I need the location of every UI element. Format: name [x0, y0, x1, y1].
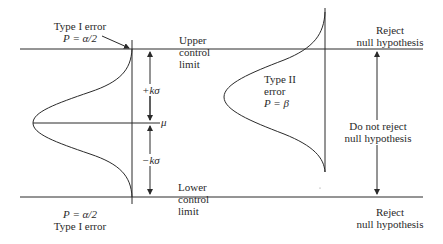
upper-limit-line2: control — [179, 46, 210, 58]
mean-label: μ — [161, 116, 167, 128]
type1-error-top-prob: P = α/2 — [44, 32, 116, 44]
reject-top-line1: Reject — [340, 24, 440, 36]
type1-error-top-title: Type I error — [44, 20, 116, 32]
lower-limit-line1: Lower — [178, 181, 209, 193]
do-not-reject-line2: null hypothesis — [338, 132, 418, 144]
upper-limit-line1: Upper — [179, 34, 210, 46]
type2-prob: P = β — [264, 97, 296, 109]
reject-bottom-line1: Reject — [340, 206, 440, 218]
reject-bottom-line2: null hypothesis — [340, 218, 440, 230]
upper-limit-line3: limit — [179, 58, 210, 70]
plus-k-sigma-label: +kσ — [141, 84, 161, 96]
type2-line1: Type II — [264, 73, 296, 85]
reject-top-line2: null hypothesis — [340, 36, 440, 48]
lower-limit-line3: limit — [178, 205, 209, 217]
reject-top-label: Reject null hypothesis — [340, 24, 440, 48]
type1-error-bottom-label: P = α/2 Type I error — [40, 208, 120, 232]
lower-control-limit-label: Lower control limit — [178, 181, 209, 217]
lower-limit-line2: control — [178, 193, 209, 205]
type2-line2: error — [264, 85, 296, 97]
type1-error-bottom-prob: P = α/2 — [40, 208, 120, 220]
type1-error-bottom-title: Type I error — [40, 220, 120, 232]
type1-error-top-label: Type I error P = α/2 — [44, 20, 116, 44]
do-not-reject-line1: Do not reject — [338, 120, 418, 132]
reject-bottom-label: Reject null hypothesis — [340, 206, 440, 230]
upper-control-limit-label: Upper control limit — [179, 34, 210, 70]
do-not-reject-label: Do not reject null hypothesis — [338, 120, 418, 144]
minus-k-sigma-label: −kσ — [141, 154, 161, 166]
type2-error-label: Type II error P = β — [264, 73, 296, 109]
